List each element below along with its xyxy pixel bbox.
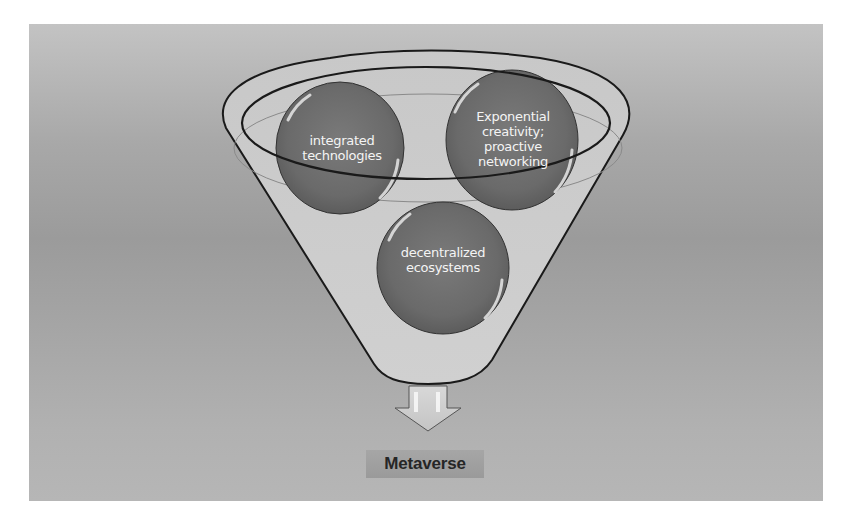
bubble-line: networking (476, 154, 550, 169)
bubble-label-exponential-creativity: Exponential creativity; proactive networ… (458, 104, 568, 174)
output-label-metaverse: Metaverse (366, 450, 484, 478)
bubble-label-integrated-technologies: integrated technologies (290, 128, 394, 168)
bubble-line: creativity; (476, 124, 550, 139)
bubble-line: ecosystems (401, 260, 485, 275)
down-arrow-icon (395, 386, 461, 431)
bubble-line: proactive (476, 139, 550, 154)
bubble-line: Exponential (476, 109, 550, 124)
output-label-text: Metaverse (384, 454, 465, 474)
bubble-line: integrated (302, 133, 381, 148)
bubble-line: technologies (302, 148, 381, 163)
bubble-label-decentralized-ecosystems: decentralized ecosystems (388, 240, 498, 280)
bubble-line: decentralized (401, 245, 485, 260)
